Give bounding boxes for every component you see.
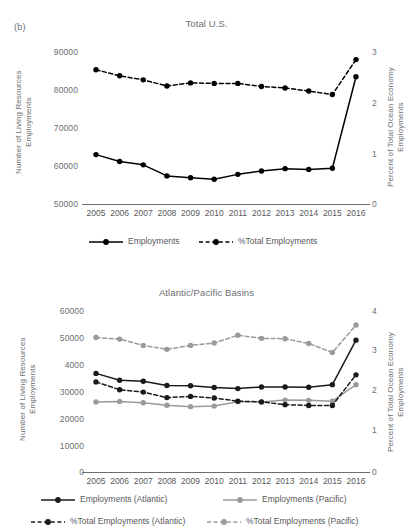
x-tick-2015: 2015 (319, 208, 345, 218)
data-point (259, 399, 264, 404)
x-tick-2009: 2009 (178, 208, 204, 218)
x-tick-2014: 2014 (296, 476, 322, 486)
y-tick-right-top-2: 1 (372, 149, 388, 159)
x-tick-2010: 2010 (201, 208, 227, 218)
y-tick-left-top-3: 60000 (30, 161, 78, 171)
data-point (93, 152, 98, 157)
data-point (93, 379, 98, 384)
x-tick-2013: 2013 (272, 208, 298, 218)
data-point (188, 404, 193, 409)
x-tick-2006: 2006 (107, 476, 133, 486)
data-point (306, 88, 311, 93)
data-point (141, 162, 146, 167)
y-tick-left-top-1: 80000 (30, 85, 78, 95)
legend-label: %Total Employments (Pacific) (246, 516, 358, 526)
data-point (235, 386, 240, 391)
legend-dashed-line-icon (30, 517, 66, 527)
x-tick-2011: 2011 (225, 476, 251, 486)
data-point (188, 175, 193, 180)
data-point (141, 343, 146, 348)
data-point (188, 80, 193, 85)
data-point (164, 83, 169, 88)
y-tick-left-bottom-5: 10000 (36, 441, 84, 451)
data-point (117, 73, 122, 78)
y-tick-right-top-0: 3 (372, 47, 388, 57)
x-tick-2011: 2011 (225, 208, 251, 218)
chart-title-total-us: Total U.S. (0, 18, 413, 29)
chart-panel-total-us: (b) Total U.S. Number of Living Resource… (0, 0, 413, 265)
legend-solid-line-icon (222, 495, 258, 505)
series-line-total-employments-pacific (96, 325, 356, 352)
x-tick-2008: 2008 (154, 208, 180, 218)
data-point (211, 385, 216, 390)
y-tick-right-bottom-2: 2 (372, 385, 388, 395)
legend-label: Employments (Pacific) (262, 494, 347, 504)
legend-label: Employments (128, 236, 180, 246)
data-point (330, 166, 335, 171)
legend-label: Employments (Atlantic) (80, 494, 167, 504)
legend-solid-line-icon (40, 495, 76, 505)
data-point (164, 173, 169, 178)
data-point (141, 389, 146, 394)
y-tick-right-bottom-4: 0 (372, 467, 388, 477)
y-tick-left-bottom-3: 30000 (36, 387, 84, 397)
data-point (93, 399, 98, 404)
data-point (282, 384, 287, 389)
data-point (188, 383, 193, 388)
x-tick-2005: 2005 (83, 208, 109, 218)
data-point (141, 400, 146, 405)
y-tick-left-top-4: 50000 (30, 199, 78, 209)
data-point (164, 383, 169, 388)
data-point (306, 398, 311, 403)
data-point (117, 159, 122, 164)
plot-area-total-us (82, 44, 370, 206)
data-point (353, 382, 358, 387)
data-point (211, 395, 216, 400)
x-tick-2007: 2007 (130, 208, 156, 218)
data-point (306, 403, 311, 408)
data-point (164, 403, 169, 408)
data-point (353, 337, 358, 342)
data-point (353, 57, 358, 62)
data-point (235, 332, 240, 337)
legend-solid-line-icon (88, 237, 124, 247)
data-point (306, 385, 311, 390)
series-line-total-employments (96, 60, 356, 95)
y-tick-right-bottom-3: 1 (372, 425, 388, 435)
series-line-employments-atlantic (96, 340, 356, 388)
data-point (93, 371, 98, 376)
data-point (211, 177, 216, 182)
chart-panel-atlantic-pacific: Atlantic/Pacific Basins Number of Living… (0, 265, 413, 530)
data-point (164, 347, 169, 352)
y-tick-left-bottom-4: 20000 (36, 414, 84, 424)
y-tick-left-bottom-0: 60000 (36, 306, 84, 316)
figure-living-resources-employment: (b) Total U.S. Number of Living Resource… (0, 0, 413, 530)
data-point (330, 350, 335, 355)
data-point (211, 81, 216, 86)
data-point (259, 336, 264, 341)
y-tick-right-top-3: 0 (372, 199, 388, 209)
data-point (188, 394, 193, 399)
data-point (259, 84, 264, 89)
y-tick-right-bottom-1: 3 (372, 345, 388, 355)
chart-title-atlantic-pacific: Atlantic/Pacific Basins (0, 287, 413, 298)
data-point (282, 85, 287, 90)
y-tick-right-bottom-0: 4 (372, 306, 388, 316)
x-tick-2008: 2008 (154, 476, 180, 486)
data-point (306, 167, 311, 172)
x-tick-2005: 2005 (83, 476, 109, 486)
x-tick-2006: 2006 (107, 208, 133, 218)
data-point (117, 336, 122, 341)
data-point (282, 402, 287, 407)
data-point (259, 384, 264, 389)
data-point (330, 403, 335, 408)
data-point (164, 395, 169, 400)
data-point (235, 398, 240, 403)
data-point (141, 379, 146, 384)
data-point (330, 382, 335, 387)
y-tick-left-bottom-6: 0 (36, 467, 84, 477)
data-point (117, 378, 122, 383)
x-tick-2016: 2016 (343, 208, 369, 218)
x-tick-2007: 2007 (130, 476, 156, 486)
data-point (353, 74, 358, 79)
